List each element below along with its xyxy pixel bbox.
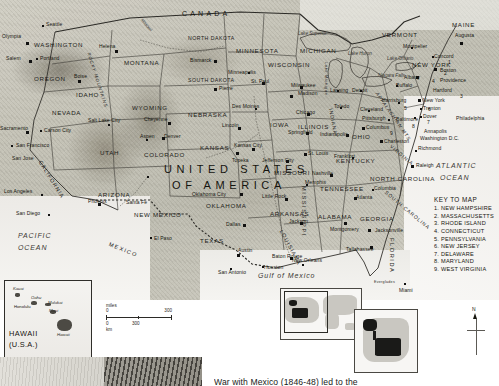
label-city-honolulu: Honolulu	[14, 304, 31, 309]
hawaii-inset-subtitle: (U.S.A.)	[9, 340, 38, 349]
label-city-minneapolis: Minneapolis	[228, 70, 256, 75]
label-city-miami: Miami	[399, 288, 413, 293]
city-marker	[380, 140, 383, 143]
label-city-chicago: Chicago	[296, 110, 315, 115]
key-item-5: 5. PENNSYLVANIA	[434, 236, 494, 242]
scale-bottom-mid: 300	[132, 321, 140, 326]
label-city-jefferson-city: Jefferson City	[262, 158, 294, 163]
city-marker	[415, 150, 417, 152]
label-city-cleveland: Cleveland	[360, 107, 383, 112]
label-city-lincoln: Lincoln	[222, 123, 239, 128]
label-state-north-carolina: NORTH CAROLINA	[370, 176, 435, 182]
key-callout-6: 6	[428, 107, 431, 112]
city-marker	[304, 153, 307, 156]
label-state-wyoming: WYOMING	[132, 105, 168, 111]
label-city-frankfort: Frankfort	[334, 154, 355, 159]
label-city-madison: Madison	[298, 91, 318, 96]
label-state-alabama: ALABAMA	[318, 214, 352, 220]
label-city-baltimore: Baltimore	[396, 117, 418, 122]
city-marker	[41, 194, 43, 196]
compass-vertical-axis	[476, 319, 477, 355]
label-island-oahu: Oahu	[31, 295, 41, 300]
city-marker	[42, 25, 44, 27]
city-marker	[252, 148, 255, 151]
key-callout-7: 7	[427, 120, 430, 125]
label-city-dallas: Dallas	[226, 222, 241, 227]
city-marker	[404, 283, 406, 285]
label-city-portland: Portland	[40, 56, 59, 61]
map-root: CANADA MEXICO UNITED STATES OF AMERICA P…	[0, 0, 499, 386]
label-city-san-diego: San Diego	[16, 211, 40, 216]
label-city-helena: Helena	[99, 44, 115, 49]
label-city-boston: Boston	[440, 68, 456, 73]
label-state-maine: MAINE	[452, 22, 475, 28]
label-state-washington: WASHINGTON	[34, 42, 83, 48]
label-city-annapolis: Annapolis	[424, 129, 447, 134]
label-city-detroit: Detroit	[352, 88, 367, 93]
label-city-el-paso: El Paso	[154, 236, 172, 241]
label-lake-michigan: Lake Michigan	[324, 62, 328, 96]
label-city-cheyenne: Cheyenne	[144, 117, 168, 122]
north-america-locator-inset	[354, 309, 418, 373]
label-state-florida: FLORIDA	[388, 238, 394, 273]
city-marker	[214, 88, 217, 91]
city-marker	[36, 58, 38, 60]
label-lake-superior: Lake Superior	[298, 32, 327, 37]
city-marker	[115, 50, 118, 53]
label-city-carson-city: Carson City	[44, 128, 71, 133]
label-city-los-angeles: Los Angeles	[4, 189, 32, 194]
label-city-boise: Boise	[74, 74, 87, 79]
label-niagara-falls: Niagara Falls	[378, 74, 405, 79]
label-city-richmond: Richmond	[418, 146, 441, 151]
label-pacific-ocean-1: PACIFIC	[18, 232, 51, 239]
label-state-mississippi: MISSISSIPPI	[300, 186, 306, 237]
label-state-texas: TEXAS	[200, 238, 224, 244]
key-item-9: 9. WEST VIRGINIA	[434, 266, 494, 272]
city-marker	[240, 193, 243, 196]
label-state-montana: MONTANA	[124, 60, 159, 66]
label-city-houston: Houston	[264, 265, 283, 270]
label-city-oklahoma-city: Oklahoma City	[192, 192, 226, 197]
city-marker	[150, 237, 152, 239]
label-state-utah: UTAH	[100, 150, 119, 156]
key-item-4: 4. CONNECTICUT	[434, 228, 494, 234]
key-item-2: 2. MASSACHUSETTS	[434, 213, 494, 219]
key-callout-1: 1	[448, 60, 451, 65]
scale-top-start: 0	[106, 308, 109, 313]
city-marker	[290, 95, 293, 98]
key-item-7: 7. DELAWARE	[434, 251, 494, 257]
label-city-kansas-city: Kansas City	[234, 143, 262, 148]
label-city-austin: Austin	[238, 248, 253, 253]
key-callout-2: 2	[444, 71, 447, 76]
label-city-raleigh: Raleigh	[416, 163, 434, 168]
label-city-salem: Salem	[6, 56, 21, 61]
city-marker	[40, 130, 42, 132]
city-marker	[411, 165, 414, 168]
key-callout-9: 9	[390, 131, 393, 136]
city-marker	[362, 127, 365, 130]
label-city-denver: Denver	[164, 134, 181, 139]
label-state-tennessee: TENNESSEE	[320, 186, 364, 192]
highlight-usa-zoom	[375, 338, 401, 356]
city-marker	[146, 139, 148, 141]
key-callout-5: 5	[404, 106, 407, 111]
label-atlantic-ocean-2: OCEAN	[440, 174, 469, 181]
label-city-toledo: Toledo	[334, 104, 349, 109]
label-island-kauai: Kauai	[13, 286, 24, 291]
city-marker	[168, 122, 171, 125]
label-city-buffalo: Buffalo	[396, 83, 412, 88]
label-state-kansas: KANSAS	[200, 145, 229, 151]
key-item-3: 3. RHODE ISLAND	[434, 220, 494, 226]
label-pacific-ocean-2: OCEAN	[18, 244, 47, 251]
city-marker	[78, 80, 81, 83]
label-island-molokai: Molokai	[48, 300, 62, 305]
label-state-vermont: VERMONT	[382, 32, 418, 38]
label-city-memphis: Memphis	[305, 180, 326, 185]
label-city-charleston: Charleston	[384, 139, 409, 144]
city-marker	[236, 152, 239, 155]
city-marker	[420, 116, 422, 118]
label-state-georgia: GEORGIA	[360, 216, 394, 222]
key-callout-8: 8	[412, 124, 415, 129]
scale-top-end: 300	[164, 308, 172, 313]
label-city-bismarck: Bismarck	[190, 58, 211, 63]
